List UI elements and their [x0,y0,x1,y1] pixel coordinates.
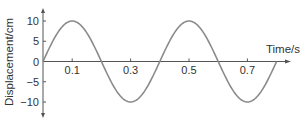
x-axis: 0.10.30.50.7 [43,59,291,76]
x-axis-arrow-icon [285,60,291,64]
x-tick-label: 0.3 [123,64,138,76]
y-tick-label: −5 [26,76,39,88]
y-axis-arrow-up-icon [41,8,45,13]
x-tick-label: 0.1 [65,64,80,76]
x-tick-label: 0.5 [181,64,196,76]
y-tick-label: −10 [20,96,39,108]
x-axis-title: Time/s [266,43,300,55]
y-tick-label: 10 [27,15,39,27]
y-tick-label: 0 [33,56,39,68]
y-axis-arrow-down-icon [41,113,45,118]
y-axis: 1050−5−10 [20,8,46,118]
x-tick-label: 0.7 [240,64,255,76]
y-axis-title: Displacement/cm [3,18,15,106]
y-tick-label: 5 [33,35,39,47]
displacement-time-chart: 1050−5−10 0.10.30.50.7 Time/s Displaceme… [0,0,306,122]
